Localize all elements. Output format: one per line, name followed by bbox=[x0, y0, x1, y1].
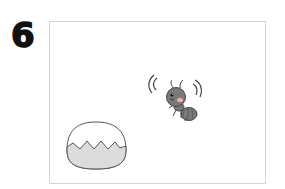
bowl-icon bbox=[67, 122, 126, 169]
scene-illustration bbox=[0, 0, 285, 189]
ant-icon bbox=[149, 75, 202, 121]
